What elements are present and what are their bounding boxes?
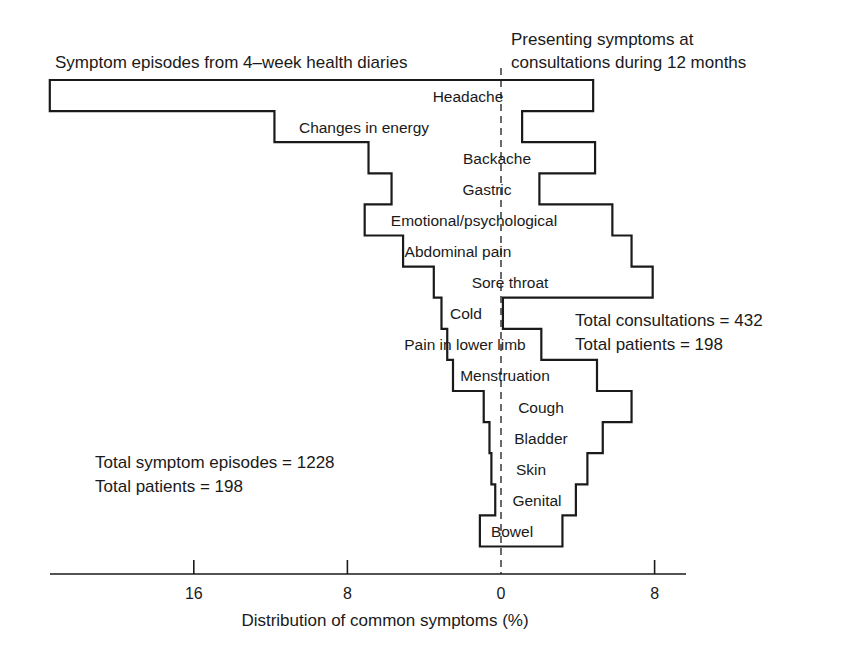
category-label: Changes in energy <box>299 119 429 136</box>
category-label: Bowel <box>491 523 533 540</box>
category-label: Headache <box>433 88 504 105</box>
category-label: Cold <box>450 305 482 322</box>
x-axis: 16808 <box>50 560 686 602</box>
x-tick-label: 0 <box>497 585 506 602</box>
category-label: Emotional/psychological <box>391 212 557 229</box>
category-labels: HeadacheChanges in energyBackacheGastric… <box>299 88 568 540</box>
right-panel-title-line1: Presenting symptoms at <box>511 30 694 49</box>
category-label: Pain in lower limb <box>404 336 525 353</box>
right-panel-title-line2: consultations during 12 months <box>511 53 746 72</box>
category-label: Genital <box>512 492 561 509</box>
x-axis-label: Distribution of common symptoms (%) <box>241 611 528 630</box>
left-total-episodes: Total symptom episodes = 1228 <box>95 453 335 472</box>
category-label: Backache <box>463 150 531 167</box>
x-tick-label: 8 <box>650 585 659 602</box>
symptom-distribution-chart: Symptom episodes from 4–week health diar… <box>0 0 841 666</box>
right-total-patients: Total patients = 198 <box>575 335 723 354</box>
category-label: Sore throat <box>472 274 549 291</box>
category-label: Menstruation <box>460 367 550 384</box>
right-total-consultations: Total consultations = 432 <box>575 311 763 330</box>
x-tick-label: 16 <box>185 585 203 602</box>
category-label: Abdominal pain <box>405 243 512 260</box>
left-panel-title: Symptom episodes from 4–week health diar… <box>55 53 407 72</box>
category-label: Gastric <box>462 181 511 198</box>
left-total-patients: Total patients = 198 <box>95 477 243 496</box>
x-tick-label: 8 <box>343 585 352 602</box>
category-label: Cough <box>518 399 564 416</box>
category-label: Bladder <box>514 430 567 447</box>
category-label: Skin <box>516 461 546 478</box>
